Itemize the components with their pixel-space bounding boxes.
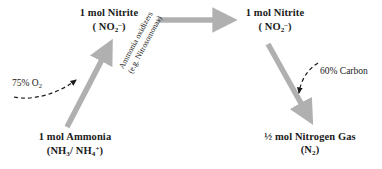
- node-ammonia-title: 1 mol Ammonia: [10, 130, 140, 143]
- formula-open-paren: (N: [301, 144, 312, 155]
- formula-close-paren: ): [288, 21, 292, 32]
- formula-slash: / NH: [70, 145, 92, 156]
- node-nitrite-right: 1 mol Nitrite ( NO2–): [222, 6, 328, 37]
- node-nitrite-right-formula: ( NO2–): [222, 19, 328, 37]
- formula-close-paren: ): [122, 21, 126, 32]
- arrow-ammonia-to-nitrite: [67, 50, 107, 127]
- annotation-oxygen: 75% O2: [12, 78, 42, 89]
- node-nitrogen-gas-formula: (N2): [240, 143, 380, 160]
- node-nitrite-right-title: 1 mol Nitrite: [222, 6, 328, 19]
- arrow-carbon-input: [299, 63, 318, 93]
- node-nitrogen-gas-title: ½ mol Nitrogen Gas: [240, 130, 380, 143]
- formula-open-paren: ( NO: [258, 21, 280, 32]
- node-ammonia: 1 mol Ammonia (NH3/ NH4+): [10, 130, 140, 161]
- arrow-nitrite-to-nitrogen-gas: [268, 44, 307, 114]
- formula-close-paren: ): [316, 144, 320, 155]
- annotation-oxygen-text: 75% O: [12, 78, 39, 88]
- annotation-carbon: 60% Carbon: [320, 66, 368, 76]
- formula-close-paren: ): [100, 145, 104, 156]
- annotation-oxygen-subscript: 2: [39, 82, 42, 89]
- node-ammonia-formula: (NH3/ NH4+): [10, 143, 140, 161]
- formula-open-paren: (NH: [47, 145, 67, 156]
- formula-open-paren: ( NO: [92, 21, 114, 32]
- nitrogen-cycle-diagram: 1 mol Nitrite ( NO2–) 1 mol Nitrite ( NO…: [0, 0, 382, 169]
- node-nitrogen-gas: ½ mol Nitrogen Gas (N2): [240, 130, 380, 160]
